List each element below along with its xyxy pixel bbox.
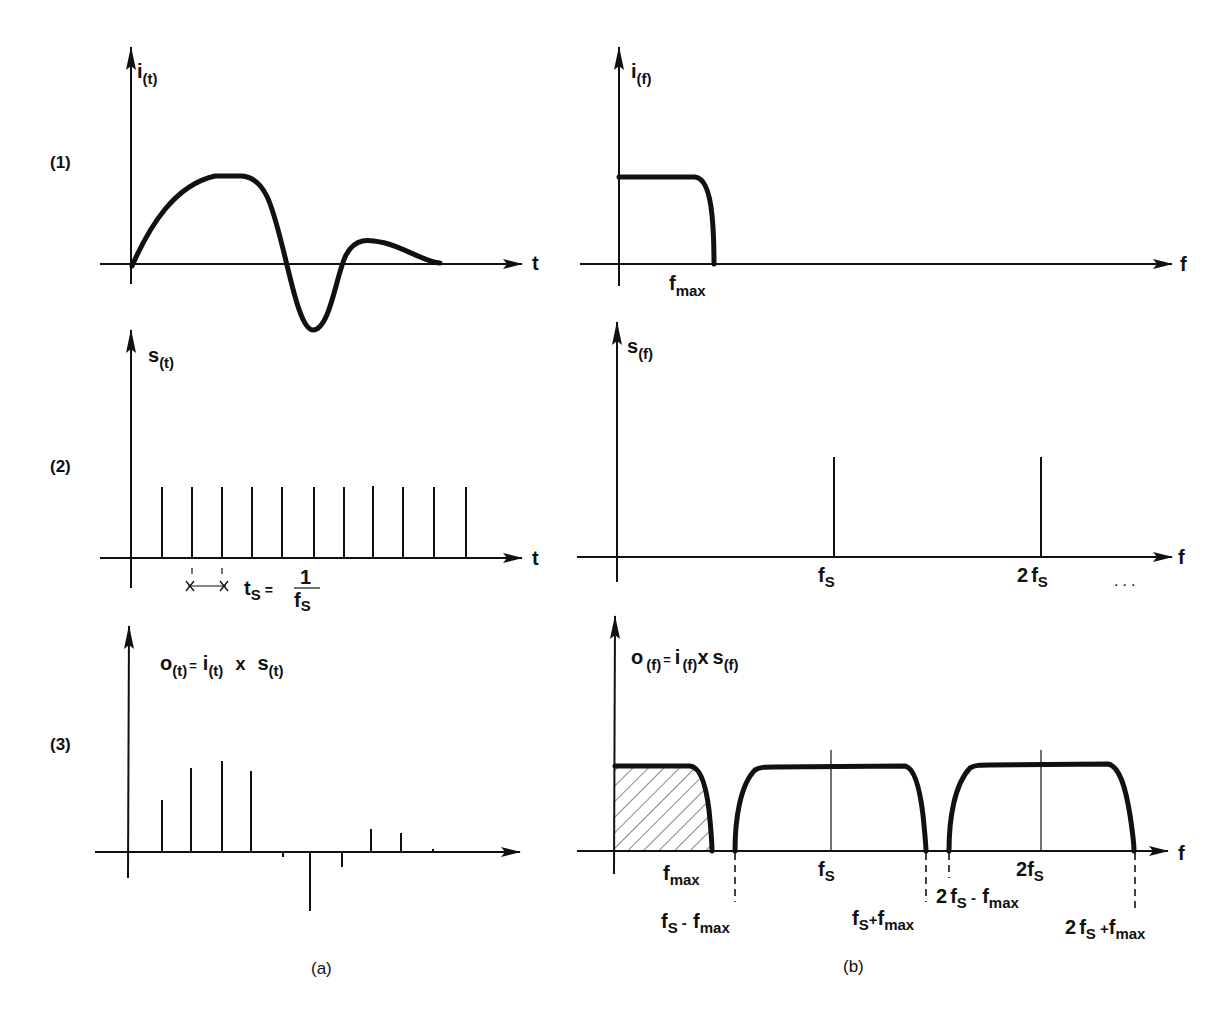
panel-a2-sampling-pulses: s(t) t tS= 1 fS <box>100 330 539 614</box>
tick-label-fs-minus-fmax: fS - fmax <box>661 910 730 936</box>
sampling-theory-figure: (1) (2) (3) i(t) t s(t) t <box>0 0 1228 1014</box>
sampled-stems <box>162 761 433 911</box>
panel-b3-output-spectrum: o(f)=i(f)xs(f) f fmax fS 2fS fS - fmax f… <box>577 616 1185 942</box>
panel-b1-input-spectrum: i(f) f fmax <box>580 47 1187 299</box>
x-axis-label: t <box>532 547 539 569</box>
period-fraction-denominator: fS <box>294 589 311 614</box>
panel-a3-sampled-output: o(t)=i(t)xs(t) <box>95 626 520 911</box>
panel-a1-input-signal: i(t) t <box>100 47 539 330</box>
tick-label-fmax: fmax <box>663 862 700 888</box>
y-axis-arrow-icon <box>128 626 129 878</box>
tick-label-2fs: 2fS <box>1016 858 1044 884</box>
y-axis-label: s(t) <box>148 344 174 371</box>
tick-label-fs: fS <box>818 564 835 590</box>
tick-label-fmax: fmax <box>669 272 706 299</box>
tick-label-2fs: 2fS <box>1017 564 1048 590</box>
y-axis-label: i(f) <box>631 60 652 87</box>
y-axis-arrow-icon <box>614 616 615 874</box>
y-axis-label: o(f)=i(f)xs(f) <box>631 646 739 673</box>
input-spectrum-band <box>619 177 714 264</box>
panel-b2-sampling-spectrum: s(f) f fS 2fS ... <box>577 322 1185 590</box>
y-axis-label: o(t)=i(t)xs(t) <box>160 652 284 679</box>
input-signal-curve <box>132 176 440 330</box>
caption-b: (b) <box>843 957 864 976</box>
period-dimension-marker <box>186 568 228 591</box>
y-axis-label: i(t) <box>137 60 158 87</box>
period-fraction-numerator: 1 <box>300 566 311 588</box>
y-axis-label: s(f) <box>627 335 653 362</box>
x-axis-label: t <box>532 252 539 274</box>
pulse-train <box>162 486 466 558</box>
x-axis-label: f <box>1178 546 1185 568</box>
row-label-1: (1) <box>50 153 71 172</box>
row-label-2: (2) <box>50 457 71 476</box>
caption-a: (a) <box>311 959 332 978</box>
baseband-hatched-fill <box>615 766 712 851</box>
period-label: tS= <box>244 577 273 603</box>
tick-label-2fs-minus-fmax: 2fS - fmax <box>936 885 1020 911</box>
ellipsis: ... <box>1114 572 1139 589</box>
tick-label-2fs-plus-fmax: 2fS +fmax <box>1065 916 1146 942</box>
tick-label-fs: fS <box>818 858 835 884</box>
x-axis-label: f <box>1180 253 1187 275</box>
tick-label-fs-plus-fmax: fS+fmax <box>852 907 915 933</box>
x-axis-label: f <box>1178 842 1185 864</box>
row-label-3: (3) <box>50 735 71 754</box>
